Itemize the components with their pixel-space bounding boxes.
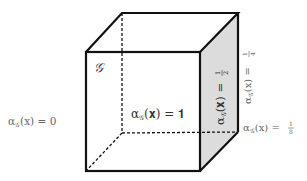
cube-diagram: 𝒢 α𝒢(𝐱) = 𝟏 α𝒢(x) = 0 α𝒢(𝐱) = 1 2 α𝒢(x) … — [0, 0, 307, 181]
graph-name-label: 𝒢 — [94, 60, 106, 75]
svg-text:α𝒢(x) =: α𝒢(x) = — [242, 67, 255, 104]
face-fraction-numerator: 1 — [214, 71, 222, 75]
vertex-label: α𝒢(x) = 1 8 — [243, 120, 294, 135]
vertex-fraction-denominator: 8 — [289, 128, 293, 135]
face-fraction-denominator: 2 — [222, 71, 230, 75]
outside-label: α𝒢(x) = 0 — [8, 115, 56, 129]
edge-label: α𝒢(x) = 1 4 — [241, 51, 256, 104]
svg-text:α𝒢(𝐱) =: α𝒢(𝐱) = — [213, 83, 228, 125]
edge-fraction-numerator: 1 — [241, 52, 248, 56]
vertex-fraction-numerator: 1 — [289, 120, 293, 127]
interior-label: α𝒢(𝐱) = 𝟏 — [131, 107, 185, 122]
edge-fraction-denominator: 4 — [249, 52, 256, 56]
hidden-edge-bottom-diag — [86, 133, 122, 171]
svg-text:α𝒢(x) =: α𝒢(x) = — [243, 122, 280, 135]
